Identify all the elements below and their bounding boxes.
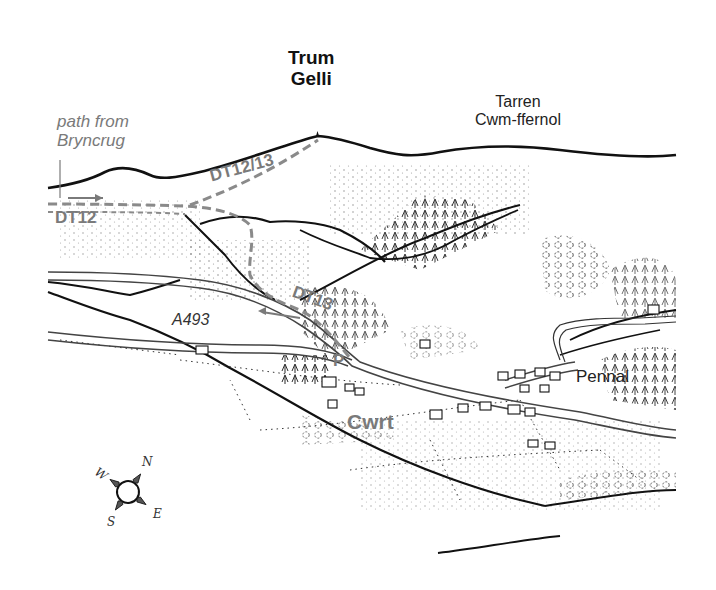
compass-n: N [142,455,153,469]
village-label-cwrt: Cwrt [347,410,394,433]
peak-label-line2: Gelli [288,69,334,90]
peak-label-line1: Trum [288,48,334,69]
panoramic-map [0,0,716,590]
path-note-label: path from Bryncrug [57,113,129,150]
village-label-pennal: Pennal [576,368,629,387]
compass-s: S [107,515,115,529]
ridge-label-tarren: Tarren Cwm-ffernol [475,93,561,128]
path-note-line1: path from [57,113,129,132]
route-label-dt12: DT12 [55,209,97,228]
road-label-a493: A493 [172,311,209,329]
compass-e: E [153,507,162,521]
ridge-label-line2: Cwm-ffernol [475,111,561,129]
parking-label: P [333,352,344,371]
path-note-line2: Bryncrug [57,132,129,151]
peak-label-trum-gelli: Trum Gelli [288,48,334,90]
ridge-label-line1: Tarren [475,93,561,111]
